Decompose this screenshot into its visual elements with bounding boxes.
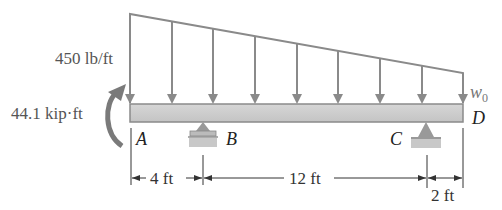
moment-label: 44.1 kip·ft [11,104,83,123]
pin-support-c [411,122,441,148]
point-label-a: A [135,129,148,149]
moment-arrow-icon [108,84,126,146]
point-label-d: D [471,108,485,128]
distributed-load [125,14,468,104]
dim-label-ab: 4 ft [150,169,173,188]
point-label-b: B [226,129,237,149]
beam [130,104,463,122]
dim-label-bc: 12 ft [289,169,321,188]
left-load-label: 450 lb/ft [55,49,113,68]
roller-support-b [188,122,218,147]
right-load-label: w0 [470,82,488,105]
dim-label-cd: 2 ft [431,186,454,205]
beam-diagram: 450 lb/ft w0 44.1 kip·ft A B C D [0,0,502,210]
load-arrows [125,14,468,104]
point-label-c: C [390,129,403,149]
